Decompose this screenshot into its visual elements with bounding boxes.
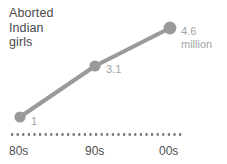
data-point-marker-80s bbox=[14, 111, 25, 122]
chart-container: Aborted Indian girls 1 3.1 4.6 million 8… bbox=[0, 0, 227, 164]
data-point-marker-00s bbox=[164, 22, 177, 35]
data-label-80s: 1 bbox=[31, 115, 37, 128]
series-line bbox=[20, 28, 170, 117]
x-axis-tick-label-00s: 00s bbox=[159, 144, 178, 158]
x-axis-tick-label-80s: 80s bbox=[9, 144, 28, 158]
data-label-00s: 4.6 million bbox=[181, 25, 212, 50]
data-label-90s: 3.1 bbox=[106, 63, 121, 76]
x-axis-tick-label-90s: 90s bbox=[85, 144, 104, 158]
data-point-marker-90s bbox=[89, 60, 100, 71]
